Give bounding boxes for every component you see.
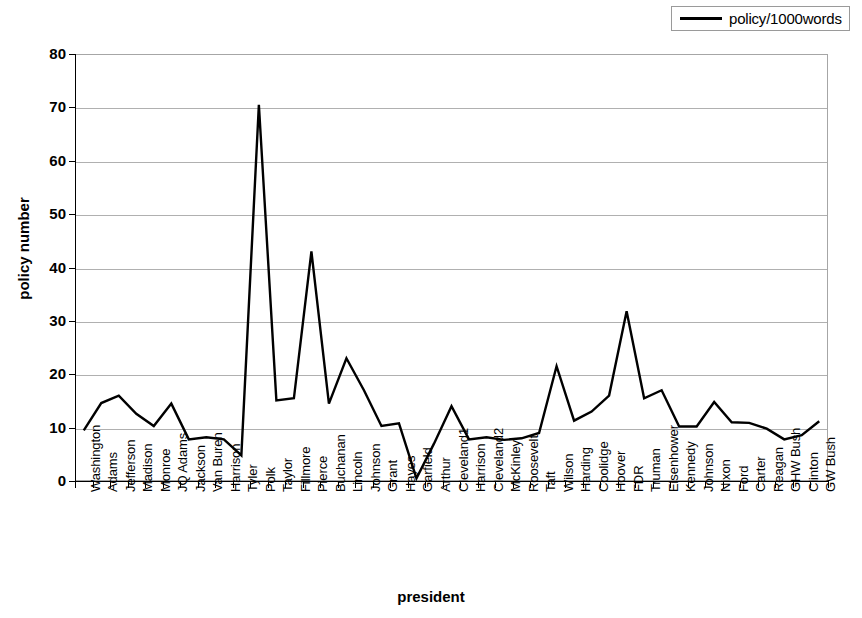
x-tick-label-36: Nixon (719, 459, 732, 492)
x-tick-label-13: Pierce (316, 456, 329, 492)
x-tick-label-30: Hoover (614, 451, 627, 492)
x-tick-label-35: Johnson (702, 444, 715, 492)
y-tick-20 (69, 374, 75, 375)
x-tick-label-24: McKinley (509, 440, 522, 492)
x-tick-label-20: Arthur (439, 457, 452, 492)
x-tick-label-29: Coolidge (597, 441, 610, 492)
y-axis-line (75, 54, 76, 482)
y-tick-label-10: 10 (24, 420, 66, 435)
plot-area (75, 54, 828, 481)
x-tick-label-9: Tyler (246, 464, 259, 492)
x-tick-label-12: Fillmore (299, 447, 312, 492)
y-tick-50 (69, 214, 75, 215)
y-tick-label-0: 0 (24, 473, 66, 488)
x-tick-label-42: GW Bush (824, 437, 837, 492)
gridline-y-60 (76, 162, 827, 163)
x-tick-label-25: Roosevelt (527, 435, 540, 492)
y-tick-label-wrap-60: 60 (0, 153, 66, 168)
x-tick-label-11: Taylor (281, 458, 294, 492)
x-tick-label-6: Jackson (194, 445, 207, 492)
y-tick-label-wrap-80: 80 (0, 46, 66, 61)
x-tick-label-23: Cleveland2 (492, 428, 505, 492)
x-tick-label-22: Harrison (474, 444, 487, 492)
x-tick-label-2: Jefferson (124, 440, 137, 492)
gridline-y-20 (76, 375, 827, 376)
x-axis-title: president (0, 588, 862, 605)
x-tick-label-14: Buchanan (334, 434, 347, 492)
x-tick-label-32: Truman (649, 448, 662, 492)
x-tick-label-16: Johnson (369, 444, 382, 492)
y-tick-60 (69, 161, 75, 162)
x-tick-label-0: Washington (89, 425, 102, 492)
x-tick-label-3: Madison (141, 444, 154, 492)
y-tick-30 (69, 321, 75, 322)
x-tick-label-38: Carter (754, 456, 767, 492)
legend-line-swatch (680, 17, 722, 20)
x-tick-label-1: Adams (106, 452, 119, 492)
y-tick-label-wrap-30: 30 (0, 313, 66, 328)
y-tick-label-80: 80 (24, 46, 66, 61)
y-tick-40 (69, 268, 75, 269)
y-tick-label-70: 70 (24, 99, 66, 114)
gridline-y-50 (76, 215, 827, 216)
x-tick-label-4: Monroe (159, 449, 172, 492)
x-tick-label-37: Ford (737, 466, 750, 492)
y-tick-label-wrap-10: 10 (0, 420, 66, 435)
gridline-y-40 (76, 269, 827, 270)
x-tick-label-33: Eisenhower (667, 425, 680, 492)
y-tick-label-wrap-0: 0 (0, 473, 66, 488)
x-tick-label-21: Cleveland1 (457, 428, 470, 492)
x-tick-label-40: GHW Bush (789, 428, 802, 492)
gridline-y-70 (76, 108, 827, 109)
x-tick-label-5: JQ Adams (176, 433, 189, 492)
x-tick-label-10: Polk (264, 467, 277, 492)
x-tick-label-7: Van Buren (211, 432, 224, 492)
x-tick-label-18: Hayes (404, 456, 417, 492)
y-tick-label-wrap-20: 20 (0, 366, 66, 381)
x-tick-label-19: Garfield (421, 447, 434, 492)
x-tick-label-26: Taft (544, 471, 557, 492)
y-tick-70 (69, 107, 75, 108)
x-tick-label-34: Kennedy (684, 441, 697, 492)
x-tick-label-8: Harrison (229, 444, 242, 492)
x-tick-label-31: FDR (632, 466, 645, 492)
y-tick-80 (69, 54, 75, 55)
y-tick-label-wrap-50: 50 (0, 206, 66, 221)
legend-label-policy: policy/1000words (729, 11, 842, 26)
x-tick-label-28: Harding (579, 447, 592, 492)
gridline-y-10 (76, 429, 827, 430)
y-tick-label-wrap-40: 40 (0, 260, 66, 275)
x-tick-0 (75, 482, 76, 488)
y-tick-10 (69, 428, 75, 429)
gridline-y-30 (76, 322, 827, 323)
x-tick-label-41: Clinton (807, 452, 820, 492)
y-tick-label-60: 60 (24, 153, 66, 168)
y-axis-title: policy number (15, 179, 32, 319)
x-tick-label-15: Lincoln (351, 452, 364, 493)
chart-root: policy/1000words 01020304050607080 polic… (0, 0, 862, 618)
x-tick-label-39: Reagan (772, 447, 785, 492)
x-tick-label-17: Grant (386, 460, 399, 492)
y-tick-label-wrap-70: 70 (0, 99, 66, 114)
x-tick-label-27: Wilson (562, 454, 575, 492)
chart-legend: policy/1000words (671, 6, 850, 31)
y-tick-label-20: 20 (24, 366, 66, 381)
